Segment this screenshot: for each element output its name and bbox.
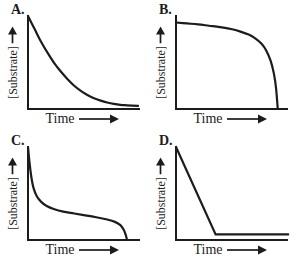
panel-c: C. [Substrate] Time: [0, 131, 148, 262]
x-axis-label: Time: [20, 111, 144, 127]
substrate-curve: [28, 147, 127, 240]
y-axis-label: [Substrate]: [5, 12, 20, 114]
substrate-vs-time-figure: A. [Substrate] Time B. [Substrate]: [0, 0, 295, 262]
panel-b: B. [Substrate] Time: [148, 0, 295, 131]
y-axis-label-text: [Substrate]: [6, 46, 18, 99]
y-axis-label: [Substrate]: [5, 143, 20, 245]
x-axis-label-text: Time: [45, 112, 74, 126]
right-arrow-icon: [227, 114, 267, 124]
x-axis-label-text: Time: [193, 112, 222, 126]
y-axis-label-text: [Substrate]: [6, 177, 18, 230]
y-axis-label: [Substrate]: [153, 12, 168, 114]
x-axis-label: Time: [168, 111, 292, 127]
up-arrow-icon: [155, 157, 165, 174]
substrate-curve: [28, 16, 138, 106]
right-arrow-icon: [79, 114, 119, 124]
substrate-curve: [176, 147, 288, 234]
right-arrow-icon: [79, 245, 119, 255]
x-axis-label-text: Time: [45, 243, 74, 257]
x-axis-label: Time: [20, 242, 144, 258]
x-axis-label: Time: [168, 242, 292, 258]
right-arrow-icon: [227, 245, 267, 255]
panel-a: A. [Substrate] Time: [0, 0, 148, 131]
y-axis-label-text: [Substrate]: [154, 177, 166, 230]
substrate-curve: [176, 23, 278, 109]
up-arrow-icon: [7, 26, 17, 43]
up-arrow-icon: [155, 26, 165, 43]
up-arrow-icon: [7, 157, 17, 174]
x-axis-label-text: Time: [193, 243, 222, 257]
panel-d: D. [Substrate] Time: [148, 131, 295, 262]
y-axis-label: [Substrate]: [153, 143, 168, 245]
y-axis-label-text: [Substrate]: [154, 46, 166, 99]
